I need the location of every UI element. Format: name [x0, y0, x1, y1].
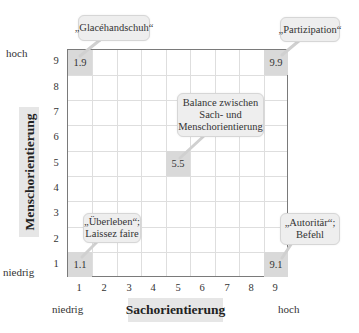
callout-text: Befehl [296, 229, 324, 241]
x-tick-1: 1 [72, 282, 86, 293]
callout-text: „Glacéhandschuh“ [75, 22, 154, 34]
callout-text: Sach- und [199, 109, 241, 121]
callout-glacehandschuh: „Glacéhandschuh“ [78, 15, 150, 41]
x-tick-2: 2 [97, 282, 111, 293]
callout-ueberleben: „Überleben“; Laissez faire [83, 213, 141, 243]
callout-text: „Partizipation“ [279, 24, 342, 36]
x-axis-low-label: niedrig [52, 303, 83, 315]
x-tick-9: 9 [268, 282, 282, 293]
x-axis-high-label: hoch [278, 303, 299, 315]
x-tick-8: 8 [244, 282, 258, 293]
x-tick-7: 7 [220, 282, 234, 293]
callout-autoritaer: „Autoritär“; Befehl [280, 213, 340, 245]
callout-text: Laissez faire [85, 228, 138, 240]
callout-balance: Balance zwischen Sach- und Menschorienti… [177, 93, 264, 137]
x-tick-3: 3 [122, 282, 136, 293]
callout-text: „Überleben“; [84, 216, 140, 228]
x-tick-5: 5 [171, 282, 185, 293]
callout-partizipation: „Partizipation“ [280, 17, 340, 42]
callout-text: Balance zwischen [183, 97, 259, 109]
callout-text: „Autoritär“; [285, 217, 336, 229]
x-tick-6: 6 [195, 282, 209, 293]
x-axis-title: Sachorientierung [128, 298, 223, 322]
x-tick-4: 4 [146, 282, 160, 293]
callout-text: Menschorientierung [178, 121, 263, 133]
